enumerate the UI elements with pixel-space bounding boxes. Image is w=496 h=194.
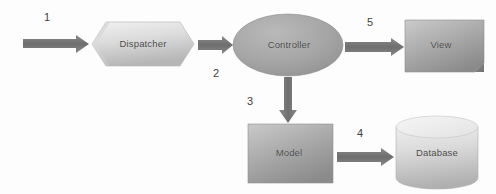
- arrow-1: [23, 35, 89, 53]
- arrow-5: [345, 38, 404, 56]
- node-label-controller: Controller: [258, 40, 320, 50]
- arrow-4: [337, 148, 394, 166]
- arrow-2: [198, 36, 233, 54]
- step-number-4: 4: [350, 128, 370, 139]
- node-label-database: Database: [400, 148, 474, 158]
- step-number-2: 2: [206, 68, 226, 79]
- node-label-dispatcher: Dispatcher: [113, 39, 173, 49]
- node-label-model: Model: [258, 148, 320, 158]
- diagram-canvas: Dispatcher Controller View Model Databas…: [0, 0, 496, 194]
- node-label-view: View: [410, 40, 472, 50]
- arrow-3: [279, 77, 297, 123]
- step-number-1: 1: [37, 12, 57, 23]
- step-number-3: 3: [240, 96, 260, 107]
- step-number-5: 5: [360, 17, 380, 28]
